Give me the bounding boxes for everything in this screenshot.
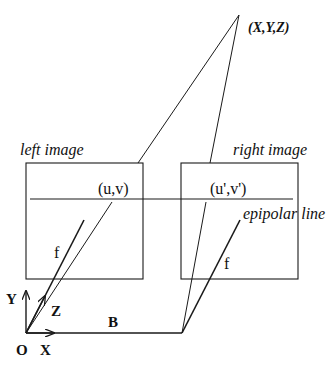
- right-ray-lower: [182, 202, 206, 333]
- stereo-geometry-diagram: [0, 0, 333, 370]
- baseline-label: B: [108, 315, 118, 330]
- left-ray-upper: [138, 15, 239, 163]
- left-ray-lower: [26, 202, 112, 333]
- x-axis-label: X: [40, 343, 51, 358]
- z-axis-arrow: [26, 296, 45, 333]
- right-image-label: right image: [233, 142, 307, 158]
- left-projection-label: (u,v): [98, 181, 129, 197]
- right-projection-label: (u',v'): [210, 181, 246, 197]
- y-axis-label: Y: [6, 292, 17, 307]
- right-focal-label: f: [224, 256, 229, 272]
- world-point-label: (X,Y,Z): [248, 21, 289, 35]
- left-image-label: left image: [20, 142, 84, 158]
- z-axis-label: Z: [51, 304, 61, 319]
- right-focal-axis: [182, 220, 240, 333]
- epipolar-line-label: epipolar line: [243, 206, 325, 222]
- left-focal-label: f: [54, 245, 59, 261]
- origin-label: O: [16, 343, 28, 358]
